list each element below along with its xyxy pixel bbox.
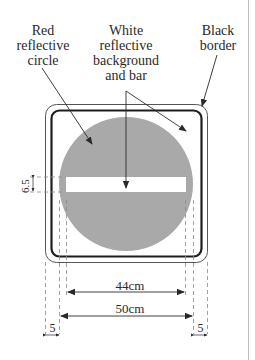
dimension-44cm-label: 44cm bbox=[110, 279, 150, 292]
dimension-5-right-label: 5 bbox=[194, 322, 207, 335]
dimension-5-left-label: 5 bbox=[46, 322, 59, 335]
dimension-50cm-label: 50cm bbox=[110, 302, 150, 315]
dimension-6-5-label: 6.5 bbox=[19, 173, 32, 193]
no-entry-sign-diagram: Red reflective circle White reflective b… bbox=[0, 0, 255, 360]
black-border-callout-arrow bbox=[202, 55, 217, 106]
